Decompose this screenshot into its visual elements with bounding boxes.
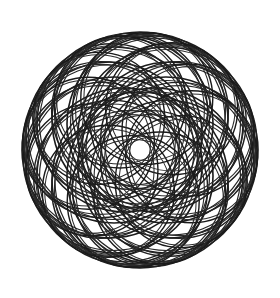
rosette-figure bbox=[0, 0, 280, 298]
artwork-canvas bbox=[0, 0, 280, 298]
